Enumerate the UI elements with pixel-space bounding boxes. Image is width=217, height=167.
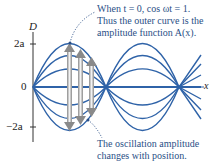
annotation-top-line-3: amplitude function A(x). xyxy=(97,27,203,39)
leader-line-top xyxy=(70,12,95,43)
annotation-top-line-1: When t = 0, cos ωt = 1. xyxy=(97,3,203,15)
tick-label-neg-2a: −2a xyxy=(6,120,23,132)
annotation-bottom-line-2: changes with position. xyxy=(97,150,199,162)
tick-label-2a: 2a xyxy=(14,37,24,49)
x-axis-label: x xyxy=(204,80,208,91)
leader-line-bottom xyxy=(88,120,102,138)
wave-curves xyxy=(33,44,201,131)
tick-label-0: 0 xyxy=(21,80,27,92)
oscillation-arrows xyxy=(64,43,97,131)
annotation-top-line-2: Thus the outer curve is the xyxy=(97,15,203,27)
annotation-bottom-line-1: The oscillation amplitude xyxy=(97,138,199,150)
y-axis-label: D xyxy=(29,20,37,32)
annotation-bottom: The oscillation amplitude changes with p… xyxy=(97,138,199,162)
annotation-top: When t = 0, cos ωt = 1. Thus the outer c… xyxy=(97,3,203,39)
